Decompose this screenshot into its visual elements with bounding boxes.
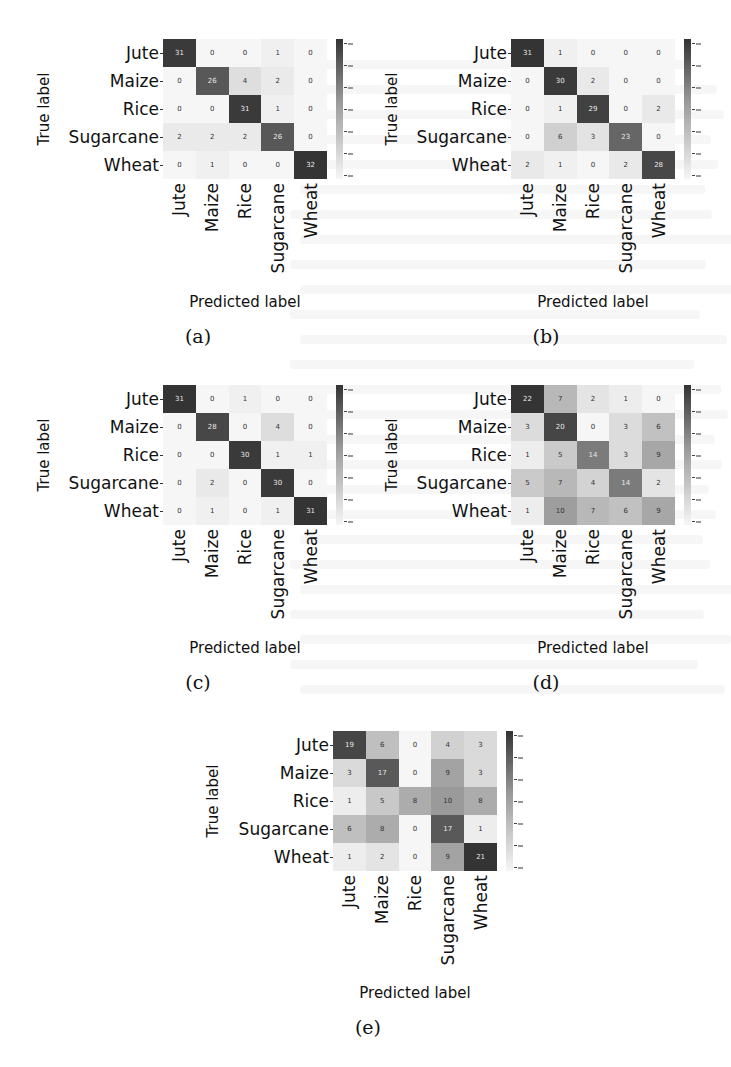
heatmap-cell: 0	[196, 95, 229, 123]
heatmap-cell: 0	[399, 731, 432, 759]
y-tick-label: Sugarcane	[351, 469, 507, 497]
heatmap-cell: 2	[196, 469, 229, 497]
heatmap-cell: 2	[609, 151, 642, 179]
colorbar-tick	[344, 87, 347, 88]
subfigure-caption: (b)	[533, 325, 560, 347]
y-tick-label: Rice	[3, 441, 159, 469]
colorbar-tick	[344, 521, 347, 522]
heatmap-cell: 0	[511, 67, 544, 95]
colorbar	[684, 39, 691, 179]
heatmap-cell: 8	[399, 787, 432, 815]
subfigure-caption: (d)	[533, 671, 560, 693]
colorbar-tick-label	[696, 65, 701, 67]
x-axis-title: Predicted label	[189, 639, 300, 657]
heatmap-cell: 0	[294, 123, 327, 151]
y-tick-label: Sugarcane	[173, 815, 329, 843]
heatmap-cell: 20	[544, 413, 577, 441]
heatmap-cell: 7	[577, 497, 610, 525]
heatmap-cell: 0	[511, 123, 544, 151]
colorbar-tick-label	[696, 521, 701, 523]
x-tick-label: Rice	[583, 183, 603, 219]
y-tick-label: Jute	[351, 39, 507, 67]
heatmap-cell: 1	[511, 497, 544, 525]
subfigure-caption: (c)	[185, 671, 210, 693]
heatmap-grid: 310100028040003011020300010131	[163, 385, 327, 525]
heatmap-cell: 0	[196, 385, 229, 413]
heatmap-cell: 2	[642, 95, 675, 123]
heatmap-cell: 2	[577, 67, 610, 95]
heatmap-cell: 7	[544, 469, 577, 497]
heatmap-cell: 0	[163, 497, 196, 525]
y-tick-label: Rice	[351, 95, 507, 123]
colorbar	[336, 39, 343, 179]
heatmap-cell: 0	[609, 39, 642, 67]
colorbar-tick-label	[696, 477, 701, 479]
colorbar-tick	[514, 845, 517, 846]
colorbar-tick	[692, 43, 695, 44]
y-tick-labels: JuteMaizeRiceSugarcaneWheat	[3, 385, 159, 525]
x-tick-label: Sugarcane	[438, 875, 458, 965]
heatmap-cell: 1	[261, 441, 294, 469]
heatmap-cell: 0	[163, 469, 196, 497]
heatmap-cell: 1	[229, 385, 262, 413]
y-tick-label: Rice	[173, 787, 329, 815]
x-axis-title: Predicted label	[537, 639, 648, 657]
heatmap-cell: 31	[163, 39, 196, 67]
x-tick-label: Rice	[235, 183, 255, 219]
heatmap-cell: 3	[609, 413, 642, 441]
heatmap-cell: 0	[399, 759, 432, 787]
heatmap-cell: 5	[366, 787, 399, 815]
x-tick-label: Sugarcane	[616, 183, 636, 273]
heatmap-cell: 22	[511, 385, 544, 413]
y-tick-labels: JuteMaizeRiceSugarcaneWheat	[3, 39, 159, 179]
heatmap-cell: 3	[464, 731, 497, 759]
heatmap-cell: 0	[577, 151, 610, 179]
heatmap-cell: 0	[163, 413, 196, 441]
y-tick-label: Wheat	[351, 497, 507, 525]
heatmap-cell: 4	[229, 67, 262, 95]
colorbar-tick-label	[518, 801, 523, 803]
heatmap-cell: 0	[642, 67, 675, 95]
heatmap-cell: 3	[511, 413, 544, 441]
x-axis-title: Predicted label	[189, 293, 300, 311]
heatmap-cell: 10	[431, 787, 464, 815]
heatmap-cell: 6	[609, 497, 642, 525]
heatmap-cell: 3	[464, 759, 497, 787]
heatmap-grid: 311000030200012902063230210228	[511, 39, 675, 179]
heatmap-cell: 0	[229, 151, 262, 179]
heatmap-cell: 2	[196, 123, 229, 151]
heatmap-cell: 1	[544, 151, 577, 179]
colorbar-tick	[514, 823, 517, 824]
colorbar-tick	[344, 499, 347, 500]
heatmap-cell: 14	[577, 441, 610, 469]
heatmap-cell: 0	[294, 413, 327, 441]
heatmap-cell: 9	[642, 497, 675, 525]
x-axis-title: Predicted label	[537, 293, 648, 311]
heatmap-cell: 0	[294, 469, 327, 497]
colorbar-tick	[344, 153, 347, 154]
heatmap-cell: 3	[577, 123, 610, 151]
colorbar-tick	[344, 389, 347, 390]
x-tick-label: Sugarcane	[268, 529, 288, 619]
colorbar-tick	[344, 477, 347, 478]
colorbar-tick	[514, 801, 517, 802]
x-tick-label: Wheat	[649, 183, 669, 238]
heatmap-cell: 30	[544, 67, 577, 95]
colorbar	[506, 731, 513, 871]
heatmap-cell: 0	[229, 413, 262, 441]
heatmap-cell: 1	[196, 151, 229, 179]
heatmap-cell: 1	[261, 39, 294, 67]
colorbar-tick-label	[518, 867, 523, 869]
colorbar-tick-label	[696, 131, 701, 133]
heatmap-cell: 6	[642, 413, 675, 441]
colorbar-tick-label	[696, 411, 701, 413]
heatmap-cell: 1	[261, 95, 294, 123]
colorbar-tick	[692, 477, 695, 478]
heatmap-cell: 8	[366, 815, 399, 843]
heatmap-cell: 5	[511, 469, 544, 497]
heatmap-cell: 14	[609, 469, 642, 497]
heatmap-cell: 30	[261, 469, 294, 497]
y-tick-label: Sugarcane	[3, 469, 159, 497]
heatmap-cell: 1	[464, 815, 497, 843]
heatmap-cell: 0	[163, 95, 196, 123]
